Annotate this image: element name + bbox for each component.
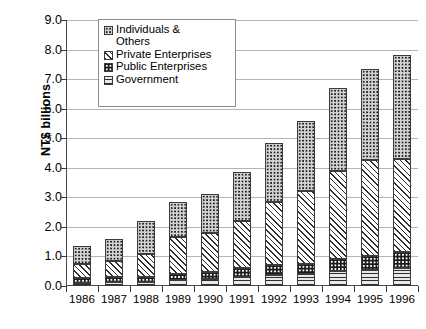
y-tick (61, 20, 67, 21)
legend: Individuals & OthersPrivate EnterprisesP… (98, 19, 236, 107)
bar-segment-public[interactable] (361, 256, 379, 270)
y-tick-label: 0.0 (18, 280, 62, 292)
y-tick-label: 9.0 (18, 14, 62, 26)
y-tick (61, 109, 67, 110)
bar-1990[interactable] (201, 194, 219, 286)
bar-segment-public[interactable] (169, 274, 187, 280)
y-tick (61, 168, 67, 169)
bar-segment-public[interactable] (73, 278, 91, 283)
x-tick-label-1996: 1996 (382, 292, 422, 306)
bar-1989[interactable] (169, 202, 187, 286)
y-tick (61, 50, 67, 51)
bar-segment-government[interactable] (73, 283, 91, 286)
bar-segment-government[interactable] (393, 268, 411, 286)
bar-1987[interactable] (105, 239, 123, 286)
bar-segment-public[interactable] (233, 268, 251, 277)
bar-1994[interactable] (329, 88, 347, 286)
y-tick (61, 138, 67, 139)
bar-segment-private[interactable] (73, 264, 91, 278)
y-axis-tick-labels: 9.08.07.06.05.04.03.02.01.00.0 (16, 20, 62, 286)
legend-item-public[interactable]: Public Enterprises (104, 61, 231, 73)
bar-segment-public[interactable] (201, 272, 219, 279)
bar-segment-public[interactable] (137, 277, 155, 282)
bar-segment-private[interactable] (361, 160, 379, 256)
bar-1991[interactable] (233, 172, 251, 286)
legend-label: Individuals & Others (116, 24, 180, 48)
bar-1988[interactable] (137, 221, 155, 286)
bar-segment-private[interactable] (233, 221, 251, 268)
legend-swatch-government-icon (104, 76, 113, 85)
bar-segment-individuals[interactable] (265, 143, 283, 202)
legend-item-individuals[interactable]: Individuals & Others (104, 24, 231, 48)
bar-segment-government[interactable] (297, 274, 315, 286)
legend-label: Public Enterprises (116, 61, 207, 73)
bar-segment-government[interactable] (169, 280, 187, 287)
bar-segment-private[interactable] (137, 254, 155, 277)
bar-segment-private[interactable] (169, 237, 187, 273)
legend-swatch-private-icon (104, 51, 113, 60)
bar-segment-government[interactable] (265, 275, 283, 286)
y-tick-label: 1.0 (18, 250, 62, 262)
stacked-bar-chart: NT$ billions 9.08.07.06.05.04.03.02.01.0… (0, 0, 426, 329)
bar-segment-individuals[interactable] (201, 194, 219, 232)
bar-segment-private[interactable] (297, 191, 315, 263)
bar-1996[interactable] (393, 55, 411, 286)
bar-segment-government[interactable] (105, 282, 123, 286)
legend-swatch-individuals-icon (104, 26, 113, 35)
bar-segment-government[interactable] (329, 271, 347, 286)
bar-1992[interactable] (265, 143, 283, 286)
y-tick (61, 227, 67, 228)
bar-segment-individuals[interactable] (233, 172, 251, 221)
bar-segment-individuals[interactable] (169, 202, 187, 237)
bar-segment-private[interactable] (105, 261, 123, 277)
y-tick-label: 5.0 (18, 132, 62, 144)
bar-1995[interactable] (361, 69, 379, 286)
bar-segment-government[interactable] (137, 282, 155, 286)
y-tick-label: 3.0 (18, 191, 62, 203)
legend-item-private[interactable]: Private Enterprises (104, 49, 231, 61)
bar-segment-private[interactable] (201, 233, 219, 272)
bar-segment-individuals[interactable] (105, 239, 123, 261)
y-tick (61, 197, 67, 198)
bar-segment-public[interactable] (393, 252, 411, 268)
legend-swatch-public-icon (104, 63, 113, 72)
bar-segment-individuals[interactable] (73, 246, 91, 264)
y-tick (61, 79, 67, 80)
bar-segment-government[interactable] (201, 279, 219, 286)
y-tick-label: 6.0 (18, 103, 62, 115)
bar-segment-public[interactable] (297, 264, 315, 274)
bar-segment-public[interactable] (105, 277, 123, 282)
bar-1993[interactable] (297, 121, 315, 287)
y-tick-label: 8.0 (18, 44, 62, 56)
bar-segment-individuals[interactable] (329, 88, 347, 171)
bar-segment-private[interactable] (265, 202, 283, 265)
bar-segment-public[interactable] (265, 265, 283, 275)
y-tick-label: 7.0 (18, 73, 62, 85)
y-tick-label: 2.0 (18, 221, 62, 233)
y-tick-label: 4.0 (18, 162, 62, 174)
x-axis-tick-labels: 1986198719881989199019911992199319941995… (66, 292, 418, 312)
bar-1986[interactable] (73, 246, 91, 286)
bar-segment-private[interactable] (329, 171, 347, 259)
bar-segment-public[interactable] (329, 259, 347, 271)
bar-segment-individuals[interactable] (393, 55, 411, 158)
bar-segment-private[interactable] (393, 159, 411, 252)
bar-segment-government[interactable] (233, 277, 251, 286)
bar-segment-individuals[interactable] (137, 221, 155, 254)
y-tick (61, 256, 67, 257)
bar-segment-government[interactable] (361, 270, 379, 286)
bar-segment-individuals[interactable] (361, 69, 379, 161)
bar-segment-individuals[interactable] (297, 121, 315, 192)
legend-item-government[interactable]: Government (104, 74, 231, 86)
legend-label: Private Enterprises (116, 49, 211, 61)
legend-label: Government (116, 74, 178, 86)
